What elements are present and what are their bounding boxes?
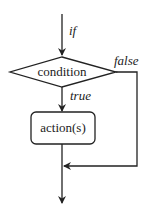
action-label: action(s) (31, 120, 95, 136)
condition-label: condition (32, 64, 92, 80)
false-label: false (114, 53, 139, 69)
true-label: true (70, 88, 91, 104)
if-label: if (69, 23, 76, 39)
